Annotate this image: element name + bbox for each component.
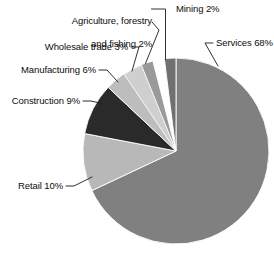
pie-label-manufacturing: Manufacturing 6% <box>4 64 96 76</box>
pie-label-retail: Retail 10% <box>0 180 63 192</box>
pie-label-construction: Construction 9% <box>0 95 80 107</box>
leader-line-mining <box>152 9 166 60</box>
pie-label-agriculture-line1: Agriculture, forestry <box>72 15 152 26</box>
pie-label-mining: Mining 2% <box>176 3 271 15</box>
pie-label-services: Services 68% <box>216 37 274 49</box>
pie-slices-group <box>83 58 269 244</box>
pie-label-wholesale-trade: Wholesale trade 3% <box>18 41 128 53</box>
pie-chart-figure: Agriculture, forestry and fishing 2% Min… <box>0 0 274 254</box>
